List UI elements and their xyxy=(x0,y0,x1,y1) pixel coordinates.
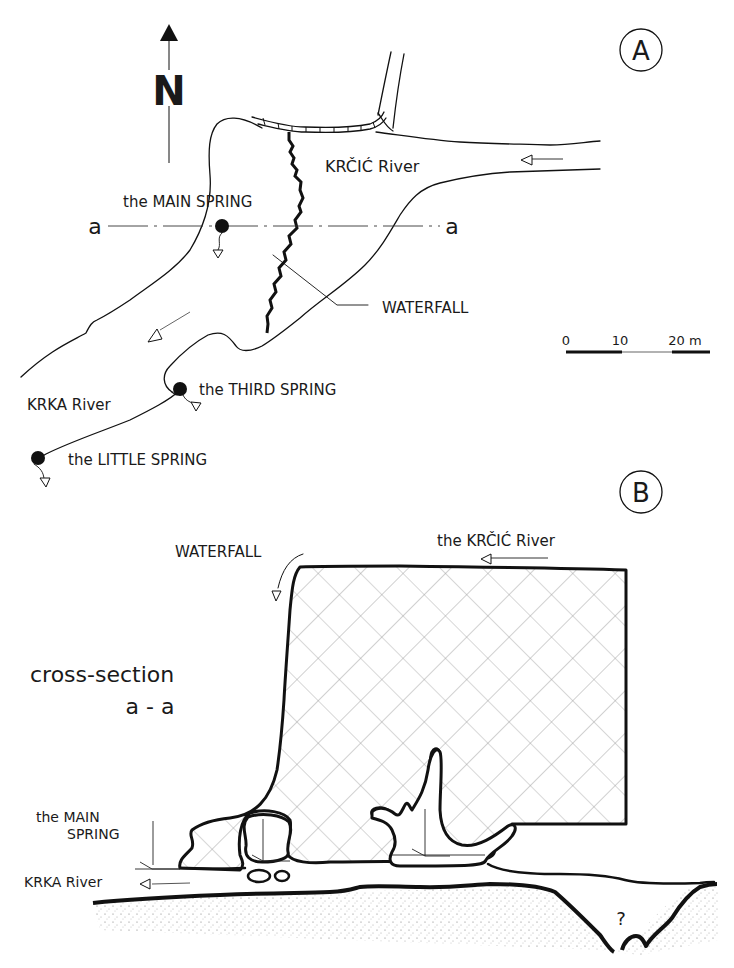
krka-river-label: KRKA River xyxy=(27,396,112,414)
little-spring-label: the LITTLE SPRING xyxy=(68,451,207,469)
scale-tick-20m: 20 m xyxy=(668,333,701,348)
krcic-river-label: KRČIĆ River xyxy=(325,157,420,176)
cave-floor xyxy=(488,864,714,884)
badge-b-label: B xyxy=(632,478,650,508)
cross-section-subtitle: a - a xyxy=(126,694,175,719)
main-spring-label: the MAIN SPRING xyxy=(123,193,252,211)
section-line-a-a: a a xyxy=(88,214,458,239)
main-spring-marker xyxy=(213,219,229,258)
unknown-depth-label: ? xyxy=(616,908,626,929)
cave-chamber-left xyxy=(244,815,291,862)
krcic-upper-bank xyxy=(376,132,600,145)
waterfall-label: WATERFALL xyxy=(382,299,469,317)
north-arrow-icon: N xyxy=(150,24,188,163)
weir-blocks xyxy=(263,118,375,132)
tributary-junction xyxy=(378,113,393,131)
waterfall-section-label: WATERFALL xyxy=(175,543,262,561)
section-mark-left: a xyxy=(88,214,101,239)
krka-flow-arrow-icon xyxy=(148,312,190,342)
krcic-flow-arrow-icon xyxy=(521,155,563,165)
waterfall-leader-line xyxy=(273,255,368,305)
cross-section-title: cross-section xyxy=(30,662,174,687)
scale-tick-0: 0 xyxy=(562,333,570,348)
scale-tick-10: 10 xyxy=(612,333,629,348)
north-label: N xyxy=(152,68,185,114)
panel-a-plan-map: A N xyxy=(21,24,710,487)
boulder-2 xyxy=(275,871,289,881)
third-spring-label: the THIRD SPRING xyxy=(199,381,336,399)
weir-top xyxy=(252,112,384,127)
little-spring-marker xyxy=(31,451,50,487)
main-spring-section-label-2: SPRING xyxy=(67,826,120,842)
tributary-left-bank xyxy=(378,52,391,115)
karst-spring-diagram: A N xyxy=(0,0,734,968)
main-spring-section-label-1: the MAIN xyxy=(36,809,100,825)
scale-bar: 0 10 20 m xyxy=(562,333,710,352)
waterfall-line xyxy=(267,132,303,333)
krka-section-flow-arrow-icon xyxy=(140,879,190,889)
main-pool-left-bank xyxy=(21,118,262,377)
krka-section-label: KRKA River xyxy=(24,874,102,890)
panel-b-cross-section: B ? xyxy=(24,471,718,955)
krcic-section-flow-arrow-icon xyxy=(481,554,548,564)
third-spring-marker xyxy=(173,382,201,411)
section-mark-right: a xyxy=(445,214,458,239)
cave-floor-left xyxy=(180,868,245,869)
tributary-right-bank xyxy=(393,54,404,128)
krcic-section-label: the KRČIĆ River xyxy=(437,531,556,550)
panel-b-badge: B xyxy=(620,471,662,513)
panel-a-badge: A xyxy=(620,29,662,71)
boulder-1 xyxy=(248,870,270,882)
badge-a-label: A xyxy=(632,36,650,66)
